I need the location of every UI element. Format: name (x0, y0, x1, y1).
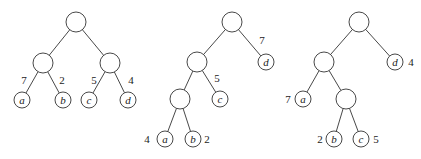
leaf-label: d (392, 56, 398, 68)
weight-label: 5 (373, 133, 379, 145)
tree-edge (184, 71, 193, 90)
internal-node (187, 52, 207, 72)
leaf-label: d (263, 56, 269, 68)
weight-label: 5 (214, 72, 220, 84)
internal-node (100, 53, 120, 73)
weight-label: 4 (144, 133, 150, 145)
tree-edge (331, 30, 353, 55)
weight-label: 4 (128, 74, 134, 86)
leaf-label: d (125, 94, 131, 106)
leaf-label: b (60, 94, 66, 106)
weight-label: 7 (259, 34, 265, 46)
tree-edge (350, 108, 359, 131)
internal-node (33, 53, 53, 73)
leaf-label: b (331, 133, 337, 145)
internal-node (314, 52, 334, 72)
leaf-label: c (218, 93, 223, 105)
tree-edge (238, 30, 260, 56)
leaf-label: a (19, 94, 25, 106)
leaf-label: a (300, 93, 306, 105)
weight-label: 5 (91, 74, 97, 86)
weight-label: 7 (21, 74, 27, 86)
leaf-label: b (190, 133, 196, 145)
tree-edge (204, 30, 226, 55)
leaf-label: a (162, 133, 168, 145)
tree-edge (168, 108, 177, 131)
tree-edge (82, 30, 103, 56)
tree-edge (329, 71, 341, 91)
weight-label: 2 (317, 133, 323, 145)
tree-edge (366, 29, 390, 56)
tree-1: a7b2c5d4 (14, 12, 136, 108)
tree-3: d4a7b2c5 (285, 12, 414, 147)
weight-label: 2 (204, 133, 210, 145)
tree-edge (48, 72, 59, 93)
tree-edge (183, 109, 190, 132)
tree-edge (49, 30, 69, 55)
internal-node (66, 12, 86, 32)
binary-trees-diagram: a7b2c5d4d7c5a4b2d4a7b2c5 (0, 0, 421, 159)
leaf-label: c (87, 94, 92, 106)
weight-label: 7 (285, 93, 291, 105)
internal-node (349, 12, 369, 32)
tree-edge (307, 71, 319, 92)
internal-node (222, 12, 242, 32)
internal-node (336, 89, 356, 109)
weight-label: 2 (59, 74, 65, 86)
leaf-label: c (359, 133, 364, 145)
tree-2: d7c5a4b2 (144, 12, 274, 147)
weight-label: 4 (408, 56, 414, 68)
tree-edge (336, 109, 343, 132)
internal-node (170, 89, 190, 109)
tree-edge (114, 72, 124, 93)
tree-edge (26, 72, 38, 93)
